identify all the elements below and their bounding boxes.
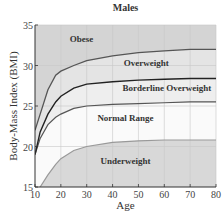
chart-plot: 10203040506070801520253035ObeseOverweigh…: [0, 0, 222, 215]
region-label: Obese: [70, 34, 94, 44]
y-tick-label: 25: [23, 101, 33, 112]
y-axis-label: Body-Mass Index (BMI): [7, 41, 19, 171]
region-label: Borderline Overweight: [123, 83, 212, 93]
y-tick-label: 15: [23, 182, 33, 193]
region-label: Normal Range: [97, 113, 153, 123]
y-tick-label: 30: [23, 61, 33, 72]
region-label: Overweight: [124, 58, 169, 68]
y-tick-label: 20: [23, 142, 33, 153]
y-tick-label: 35: [23, 20, 33, 31]
x-axis-label: Age: [35, 199, 216, 211]
region-label: Underweight: [101, 156, 151, 166]
